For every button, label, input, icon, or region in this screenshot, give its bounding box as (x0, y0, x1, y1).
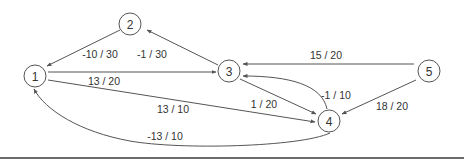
edge-label: -13 / 10 (147, 130, 183, 142)
edge-5-to-3: 15 / 20 (243, 49, 414, 64)
edge-label: 18 / 20 (376, 100, 408, 112)
edge-label: 13 / 20 (88, 75, 120, 87)
edge-1-to-3: 13 / 20 (48, 72, 216, 87)
node-5: 5 (418, 60, 440, 82)
edge-label: -1 / 30 (137, 48, 167, 60)
edge-5-to-4: 18 / 20 (342, 80, 416, 114)
bottom-divider (0, 157, 464, 159)
node-1: 1 (24, 65, 46, 87)
network-graph: -10 / 30 -1 / 30 13 / 20 15 / 20 13 / 10… (0, 0, 464, 161)
edge-label: 13 / 10 (157, 103, 189, 115)
edge-3-to-4: 1 / 20 (240, 79, 316, 114)
edge-label: 15 / 20 (310, 49, 342, 61)
node-3: 3 (218, 60, 240, 82)
node-label: 5 (426, 65, 433, 79)
edge-label: -10 / 30 (82, 48, 118, 60)
edge-2-to-1: -10 / 30 (47, 30, 120, 66)
node-label: 1 (32, 70, 39, 84)
edge-3-to-2: -1 / 30 (137, 30, 218, 65)
node-4: 4 (318, 110, 340, 132)
node-2: 2 (119, 13, 141, 35)
edge-label: -1 / 10 (321, 89, 351, 101)
node-label: 3 (226, 65, 233, 79)
edge-label: 1 / 20 (251, 98, 277, 110)
node-label: 4 (326, 115, 333, 129)
node-label: 2 (127, 18, 134, 32)
